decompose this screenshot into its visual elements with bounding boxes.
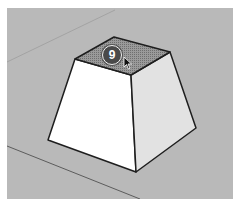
front-face[interactable] xyxy=(48,59,136,172)
3d-viewport[interactable]: 9 xyxy=(7,8,233,199)
step-badge: 9 xyxy=(102,45,122,65)
scene-canvas[interactable] xyxy=(7,8,233,199)
arrow-cursor-icon xyxy=(123,56,133,70)
